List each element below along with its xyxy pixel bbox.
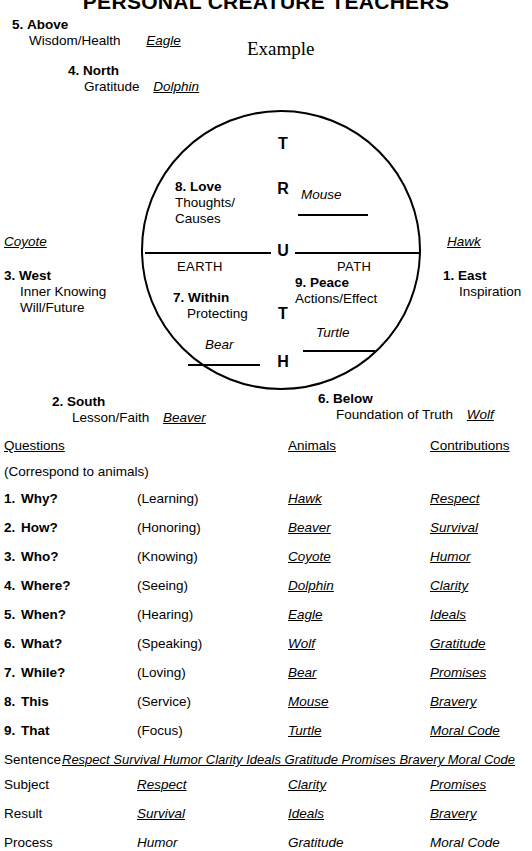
equator-line-right <box>295 252 420 254</box>
direction-below-animal: Wolf <box>467 407 494 422</box>
row-question: How? <box>21 520 58 535</box>
table-row: 5. When? (Hearing) Eagle Ideals <box>4 607 528 636</box>
summary-value-1: Respect <box>137 777 187 792</box>
quadrant-within-number: 7. <box>173 290 184 305</box>
table-row: 8. This (Service) Mouse Bravery <box>4 694 528 723</box>
summary-value-3: Moral Code <box>430 835 500 850</box>
row-number: 1. <box>4 491 15 506</box>
quadrant-love-number: 8. <box>175 179 186 194</box>
row-animal: Wolf <box>288 636 315 651</box>
row-contribution: Gratitude <box>430 636 486 651</box>
row-question: This <box>21 694 49 709</box>
quadrant-within-animal: Bear <box>205 337 234 352</box>
direction-above-number: 5. <box>12 17 23 32</box>
direction-south-animal: Beaver <box>163 410 206 425</box>
quadrant-love-animal: Mouse <box>301 187 342 202</box>
row-paren: (Learning) <box>137 491 199 506</box>
direction-below-attribute: Foundation of Truth <box>336 407 453 422</box>
row-question: While? <box>21 665 65 680</box>
summary-row-result: Result Survival Ideals Bravery <box>4 806 528 835</box>
quadrant-love-name: Love <box>190 179 222 194</box>
table-row: 1. Why? (Learning) Hawk Respect <box>4 491 528 520</box>
turtle-underline-rule <box>303 350 375 352</box>
direction-below-number: 6. <box>318 391 329 406</box>
row-animal: Dolphin <box>288 578 334 593</box>
row-contribution: Promises <box>430 665 486 680</box>
direction-north-animal: Dolphin <box>153 79 199 94</box>
row-number: 5. <box>4 607 15 622</box>
path-label: PATH <box>337 259 371 274</box>
truth-letter-r: R <box>272 180 294 198</box>
summary-value-3: Promises <box>430 777 486 792</box>
quadrant-love: 8. Love Thoughts/ Causes <box>175 179 235 227</box>
direction-south-number: 2. <box>52 394 63 409</box>
row-animal: Beaver <box>288 520 331 535</box>
row-paren: (Honoring) <box>137 520 201 535</box>
bear-underline-rule <box>188 364 260 366</box>
summary-value-1: Survival <box>137 806 185 821</box>
direction-west-name: West <box>19 268 51 283</box>
column-header-questions: Questions <box>4 438 65 453</box>
summary-value-2: Gratitude <box>288 835 344 850</box>
questions-table: Questions Animals Contributions (Corresp… <box>4 438 528 851</box>
quadrant-peace-name: Peace <box>310 275 349 290</box>
row-contribution: Humor <box>430 549 471 564</box>
direction-south-attribute: Lesson/Faith <box>72 410 149 425</box>
direction-west-animal: Coyote <box>4 234 47 249</box>
summary-value-1: Humor <box>137 835 178 850</box>
sentence-text: Respect Survival Humor Clarity Ideals Gr… <box>62 752 515 767</box>
row-number: 4. <box>4 578 15 593</box>
direction-east-number: 1. <box>443 268 454 283</box>
truth-letter-t-2: T <box>272 305 294 323</box>
row-question: When? <box>21 607 66 622</box>
direction-above-attribute: Wisdom/Health <box>29 33 121 48</box>
quadrant-peace-animal: Turtle <box>316 325 350 340</box>
equator-line-left <box>145 252 271 254</box>
row-number: 3. <box>4 549 15 564</box>
quadrant-within-name: Within <box>188 290 229 305</box>
row-animal: Mouse <box>288 694 329 709</box>
table-row: 4. Where? (Seeing) Dolphin Clarity <box>4 578 528 607</box>
row-paren: (Knowing) <box>137 549 198 564</box>
row-contribution: Bravery <box>430 694 477 709</box>
summary-label: Result <box>4 806 42 821</box>
column-header-animals: Animals <box>288 438 336 453</box>
direction-block-east: 1. East Inspiration <box>443 268 521 300</box>
direction-above-name: Above <box>27 17 68 32</box>
row-paren: (Hearing) <box>137 607 193 622</box>
direction-west-attribute-2: Will/Future <box>20 300 106 316</box>
direction-block-north: 4. North Gratitude Dolphin <box>68 63 199 95</box>
column-header-contributions: Contributions <box>430 438 510 453</box>
truth-letter-h: H <box>272 353 294 371</box>
direction-block-above: 5. Above Wisdom/Health Eagle <box>12 17 181 49</box>
direction-below-name: Below <box>333 391 373 406</box>
row-contribution: Ideals <box>430 607 466 622</box>
row-number: 2. <box>4 520 15 535</box>
truth-letter-u: U <box>272 242 294 260</box>
quadrant-peace: 9. Peace Actions/Effect <box>295 275 377 307</box>
direction-south-name: South <box>67 394 105 409</box>
summary-row-process: Process Humor Gratitude Moral Code <box>4 835 528 851</box>
example-label: Example <box>247 38 315 60</box>
row-paren: (Speaking) <box>137 636 202 651</box>
direction-north-attribute: Gratitude <box>84 79 140 94</box>
direction-east-name: East <box>458 268 487 283</box>
summary-row-subject: Subject Respect Clarity Promises <box>4 777 528 806</box>
quadrant-love-line-2: Causes <box>175 211 235 227</box>
page-title: PERSONAL CREATURE TEACHERS <box>0 0 532 14</box>
sentence-row: Sentence Respect Survival Humor Clarity … <box>4 752 528 777</box>
summary-label: Subject <box>4 777 49 792</box>
table-row: 7. While? (Loving) Bear Promises <box>4 665 528 694</box>
row-contribution: Clarity <box>430 578 468 593</box>
table-row: 6. What? (Speaking) Wolf Gratitude <box>4 636 528 665</box>
summary-value-2: Clarity <box>288 777 326 792</box>
row-paren: (Focus) <box>137 723 183 738</box>
direction-north-name: North <box>83 63 119 78</box>
row-question: Why? <box>21 491 58 506</box>
row-number: 9. <box>4 723 15 738</box>
quadrant-love-line-1: Thoughts/ <box>175 195 235 211</box>
quadrant-peace-number: 9. <box>295 275 306 290</box>
direction-block-below: 6. Below Foundation of Truth Wolf <box>318 391 494 423</box>
row-question: That <box>21 723 50 738</box>
table-row: 2. How? (Honoring) Beaver Survival <box>4 520 528 549</box>
